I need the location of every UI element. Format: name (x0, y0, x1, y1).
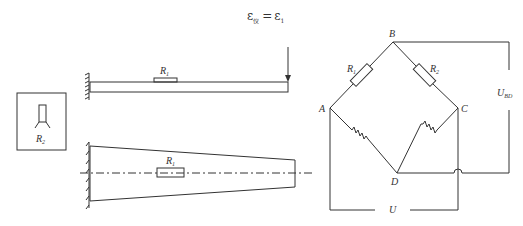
compensation-block: R2 (17, 93, 66, 150)
wheatstone-bridge: R1 R2 B A C D UBD U (318, 28, 513, 215)
resistor-r1 (350, 64, 372, 87)
gauge-lead-right (46, 122, 50, 128)
supply-wire-a (330, 108, 375, 210)
gauge-r1-label: R1 (159, 65, 169, 77)
gauge-r1-label: R1 (165, 155, 175, 167)
node-c-label: C (461, 103, 468, 114)
supply-wire-c (410, 108, 458, 210)
r1-label: R1 (346, 63, 356, 75)
gauge-r1 (154, 78, 177, 82)
resistor-ad (330, 108, 397, 173)
gauge-r2-label: R2 (35, 133, 45, 145)
supply-label: U (389, 204, 397, 215)
cantilever-top-view: R1 (80, 142, 314, 209)
node-d-label: D (390, 176, 399, 187)
equation: ε仪=ε1 (247, 9, 284, 24)
support-hatch (85, 73, 89, 99)
node-a-label: A (318, 103, 326, 114)
resistor-cd (397, 108, 458, 173)
gauge-lead-left (35, 122, 39, 128)
output-wire-b (393, 42, 509, 70)
beam (90, 82, 288, 92)
strain-gauge-diagram: ε仪=ε1 R1 R2 (0, 0, 523, 226)
output-wire-d-crossover (397, 169, 467, 173)
arrow-head-icon (285, 75, 291, 82)
gauge-r2-body (39, 105, 46, 122)
r2-label: R2 (429, 63, 439, 75)
output-label: UBD (497, 87, 513, 99)
cantilever-side-view: R1 (85, 47, 291, 100)
output-wire-return (467, 110, 509, 173)
node-b-label: B (389, 28, 395, 39)
